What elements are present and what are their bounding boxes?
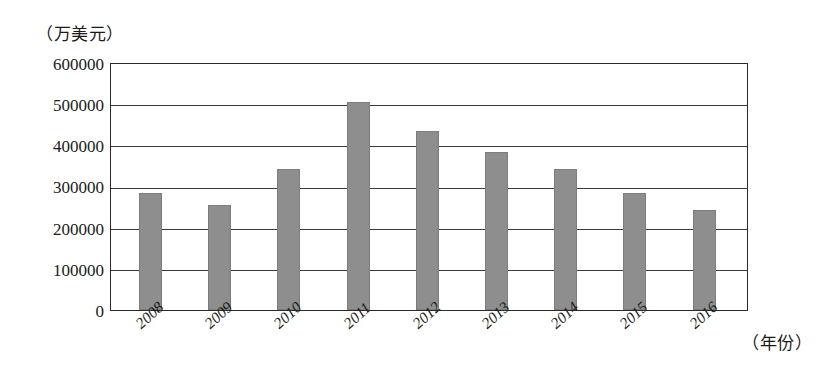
y-tick-label: 600000 (0, 56, 104, 73)
bar (623, 193, 646, 310)
bar (693, 210, 716, 310)
y-axis-tick-labels: 600000 500000 400000 300000 200000 10000… (0, 0, 104, 388)
y-tick-label: 100000 (0, 262, 104, 279)
bar (416, 131, 439, 310)
y-tick-label: 400000 (0, 138, 104, 155)
bar (554, 169, 577, 310)
y-tick-label: 0 (0, 303, 104, 320)
bar (208, 205, 231, 310)
bar (277, 169, 300, 310)
y-tick-label: 500000 (0, 97, 104, 114)
bar (139, 193, 162, 310)
y-tick-label: 300000 (0, 179, 104, 196)
bars-layer (111, 64, 747, 310)
bar (485, 152, 508, 310)
x-axis-unit-label: （年份） (742, 329, 812, 354)
y-tick-label: 200000 (0, 221, 104, 238)
plot-area (110, 63, 748, 311)
bar-chart: （万美元） 600000 500000 400000 300000 200000… (0, 0, 830, 388)
bar (347, 102, 370, 310)
